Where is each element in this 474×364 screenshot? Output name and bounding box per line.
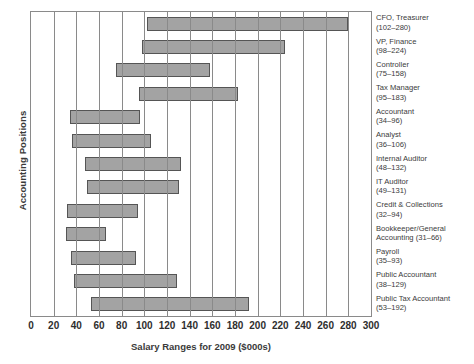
x-tick-label: 120 (159, 320, 176, 331)
category-label-name: Analyst (376, 130, 474, 139)
gridline (122, 12, 123, 316)
x-tick-label: 300 (363, 320, 380, 331)
category-label: Internal Auditor(48–132) (376, 154, 474, 173)
category-label-range: (38–129) (376, 280, 474, 289)
category-label: CFO, Treasurer(102–280) (376, 13, 474, 32)
x-tick-label: 140 (181, 320, 198, 331)
category-label-range: Accounting (31–66) (376, 233, 474, 242)
category-label: Payroll(35–93) (376, 247, 474, 266)
x-tick-label: 240 (295, 320, 312, 331)
range-bar (70, 110, 140, 124)
category-label-name: Tax Manager (376, 83, 474, 92)
category-label: Public Tax Accountant(53–192) (376, 294, 474, 313)
gridline (326, 12, 327, 316)
category-label-range: (35–93) (376, 256, 474, 265)
x-tick-label: 80 (116, 320, 127, 331)
range-bar (147, 17, 349, 31)
range-bar (72, 134, 151, 148)
category-label-name: VP, Finance (376, 37, 474, 46)
category-label-name: Payroll (376, 247, 474, 256)
plot-area (30, 11, 372, 317)
salary-range-chart: Accounting Positions 0204060801001201401… (0, 0, 474, 364)
category-label-range: (102–280) (376, 23, 474, 32)
range-bar (67, 204, 137, 218)
category-label-name: Public Tax Accountant (376, 294, 474, 303)
y-axis-title: Accounting Positions (17, 61, 28, 261)
category-label-name: Public Accountant (376, 270, 474, 279)
category-label: Bookkeeper/GeneralAccounting (31–66) (376, 224, 474, 243)
category-label: VP, Finance(98–224) (376, 37, 474, 56)
category-label: Public Accountant(38–129) (376, 270, 474, 289)
gridline (144, 12, 145, 316)
gridline (280, 12, 281, 316)
plot-inner (31, 12, 371, 316)
range-bar (139, 87, 239, 101)
x-tick-label: 60 (93, 320, 104, 331)
category-label-range: (95–183) (376, 93, 474, 102)
category-label-range: (49–131) (376, 186, 474, 195)
category-label-name: Controller (376, 60, 474, 69)
gridline (258, 12, 259, 316)
category-label: Analyst(36–106) (376, 130, 474, 149)
category-label-name: Accountant (376, 107, 474, 116)
x-axis-tick-labels: 0204060801001201401601802002202402602803… (30, 320, 372, 336)
range-bar (91, 297, 249, 311)
category-label-name: Internal Auditor (376, 154, 474, 163)
range-bar (116, 63, 210, 77)
range-bar (142, 40, 285, 54)
gridline (190, 12, 191, 316)
x-tick-label: 280 (340, 320, 357, 331)
x-tick-label: 180 (227, 320, 244, 331)
gridline (212, 12, 213, 316)
x-tick-label: 40 (71, 320, 82, 331)
range-bar (71, 251, 137, 265)
category-label: Tax Manager(95–183) (376, 83, 474, 102)
category-label: Credit & Collections(32–94) (376, 200, 474, 219)
gridline (54, 12, 55, 316)
x-tick-label: 0 (28, 320, 34, 331)
range-bar (74, 274, 177, 288)
category-label-range: (36–106) (376, 140, 474, 149)
category-label-name: Bookkeeper/General (376, 224, 474, 233)
category-label: Controller(75–158) (376, 60, 474, 79)
category-label: IT Auditor(49–131) (376, 177, 474, 196)
x-tick-label: 260 (317, 320, 334, 331)
x-tick-label: 200 (249, 320, 266, 331)
x-axis-title: Salary Ranges for 2009 ($000s) (30, 341, 372, 352)
category-label-range: (48–132) (376, 163, 474, 172)
gridline (235, 12, 236, 316)
x-tick-label: 20 (48, 320, 59, 331)
category-label: Accountant(34–96) (376, 107, 474, 126)
category-label-range: (34–96) (376, 116, 474, 125)
category-label-name: Credit & Collections (376, 200, 474, 209)
category-label-range: (53–192) (376, 303, 474, 312)
range-bar (87, 180, 180, 194)
category-label-range: (32–94) (376, 210, 474, 219)
x-tick-label: 100 (136, 320, 153, 331)
category-labels: CFO, Treasurer(102–280)VP, Finance(98–22… (376, 11, 474, 317)
x-tick-label: 220 (272, 320, 289, 331)
category-label-range: (75–158) (376, 69, 474, 78)
gridline (76, 12, 77, 316)
gridline (167, 12, 168, 316)
gridline (348, 12, 349, 316)
gridline (99, 12, 100, 316)
category-label-name: IT Auditor (376, 177, 474, 186)
x-tick-label: 160 (204, 320, 221, 331)
category-label-range: (98–224) (376, 46, 474, 55)
category-label-name: CFO, Treasurer (376, 13, 474, 22)
gridline (303, 12, 304, 316)
